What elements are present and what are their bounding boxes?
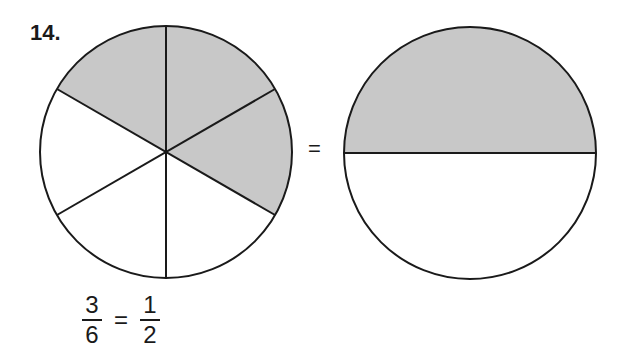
shaded-sectors (57, 26, 292, 215)
fraction-one-half: 1 2 (140, 293, 160, 347)
denominator: 2 (143, 323, 156, 347)
numerator: 1 (143, 293, 156, 317)
fraction-equation: 3 6 = 1 2 (82, 293, 160, 347)
two-part-circle (344, 27, 596, 279)
equals-sign: = (114, 306, 128, 334)
shaded-half (344, 27, 596, 153)
six-part-circle (40, 26, 292, 278)
numerator: 3 (85, 293, 98, 317)
denominator: 6 (85, 323, 98, 347)
fraction-three-sixths: 3 6 (82, 293, 102, 347)
equals-sign: = (308, 136, 321, 162)
